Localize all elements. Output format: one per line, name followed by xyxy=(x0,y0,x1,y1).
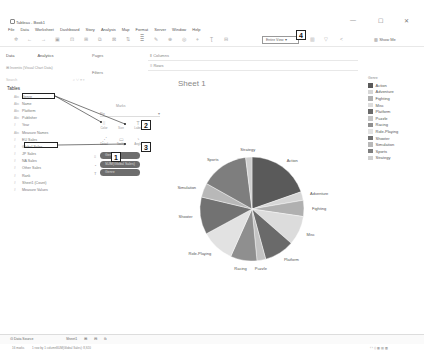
navigation-icons[interactable]: ‹ › ⟨ ⟩ ▦ ▤ ▩ xyxy=(370,346,388,350)
marks-count: 16 marks xyxy=(12,346,24,350)
datasource-tab-label: Data Source xyxy=(14,337,33,341)
datasource-tab[interactable]: ⊙ Data Source xyxy=(10,337,33,341)
callout-4: 4 xyxy=(296,30,306,40)
rows-columns: 1 row by 1 column xyxy=(32,346,56,350)
callout-3: 3 xyxy=(141,142,151,152)
sum-status: SUM(Global Sales): 8,920 xyxy=(56,346,91,350)
annotation-lines xyxy=(0,0,424,360)
sheet1-tab[interactable]: Sheet1 xyxy=(66,337,77,341)
new-sheet-icon[interactable]: ⊞ xyxy=(84,337,87,341)
sheet-tabs-bar: ⊙ Data Source Sheet1 ⊞ ⊟ ⧉ xyxy=(0,334,424,344)
new-story-icon[interactable]: ⧉ xyxy=(104,337,107,341)
new-dashboard-icon[interactable]: ⊟ xyxy=(94,337,97,341)
callout-1: 1 xyxy=(111,152,121,162)
callout-2: 2 xyxy=(141,120,151,130)
